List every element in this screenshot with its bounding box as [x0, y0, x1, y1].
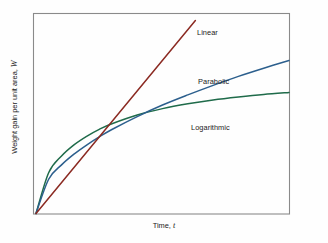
- plot-frame: [34, 14, 290, 215]
- chart-screenshot: Weight gain per unit area, W Time, t Lin…: [0, 0, 328, 243]
- chart-figure: Weight gain per unit area, W Time, t Lin…: [0, 0, 328, 243]
- y-axis-label-wrap: Weight gain per unit area, W: [0, 0, 28, 214]
- x-axis-label-symbol: t: [173, 221, 175, 230]
- x-axis-label: Time, t: [0, 221, 328, 230]
- linear-curve: [36, 20, 195, 213]
- y-axis-label-symbol: W: [10, 60, 19, 67]
- series-label-logarithmic: Logarithmic: [191, 123, 230, 132]
- chart-canvas: [0, 0, 328, 243]
- series-label-linear: Linear: [197, 28, 218, 37]
- series-label-parabolic: Parabolic: [198, 77, 229, 86]
- x-axis-label-text: Time,: [153, 221, 173, 230]
- parabolic-curve: [36, 60, 289, 213]
- logarithmic-curve: [36, 93, 289, 214]
- y-axis-label: Weight gain per unit area, W: [10, 60, 19, 153]
- y-axis-label-text: Weight gain per unit area,: [10, 67, 19, 154]
